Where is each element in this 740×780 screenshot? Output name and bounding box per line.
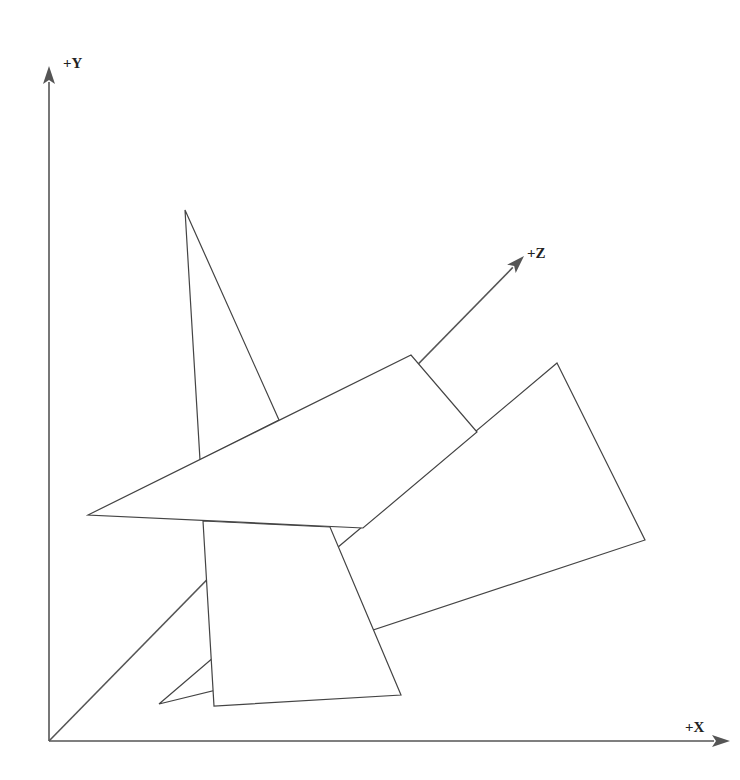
x-axis: [49, 735, 730, 747]
polygon-layer: [88, 210, 645, 706]
y-axis-arrowhead-icon: [43, 66, 55, 84]
3d-axes-diagram: [0, 0, 740, 780]
tall-triangle: [185, 210, 279, 460]
x-axis-label: +X: [685, 720, 704, 735]
x-axis-arrowhead-icon: [712, 735, 730, 747]
z-axis-label: +Z: [527, 246, 546, 261]
small-triangle: [159, 657, 216, 704]
y-axis-label: +Y: [63, 56, 82, 71]
y-axis: [43, 66, 55, 741]
